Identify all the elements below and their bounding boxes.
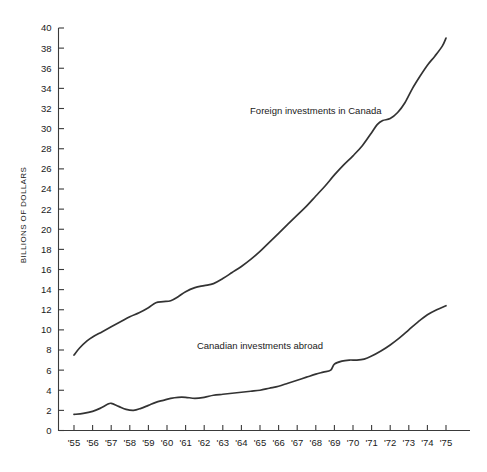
y-tick-label: 6	[46, 365, 51, 376]
y-tick-label: 0	[46, 425, 51, 436]
line-chart: BILLIONS OF DOLLARS 02468101214161820222…	[0, 0, 487, 472]
chart-background	[0, 0, 487, 472]
series-label-foreign-investments-in-canada: Foreign investments in Canada	[250, 105, 382, 116]
x-tick-label: '75	[440, 437, 452, 448]
x-tick-label: '72	[384, 437, 396, 448]
x-tick-label: '70	[347, 437, 359, 448]
y-tick-label: 4	[46, 385, 51, 396]
y-tick-label: 8	[46, 344, 51, 355]
y-tick-label: 26	[41, 163, 52, 174]
x-tick-label: '73	[403, 437, 415, 448]
y-tick-label: 40	[41, 22, 52, 33]
x-tick-label: '66	[272, 437, 284, 448]
y-tick-label: 10	[41, 324, 52, 335]
x-tick-label: '69	[328, 437, 340, 448]
x-tick-label: '56	[86, 437, 98, 448]
y-tick-label: 14	[41, 284, 52, 295]
y-tick-label: 24	[41, 183, 52, 194]
x-tick-label: '65	[254, 437, 266, 448]
series-label-canadian-investments-abroad: Canadian investments abroad	[197, 340, 323, 351]
x-tick-label: '61	[179, 437, 191, 448]
x-tick-label: '55	[68, 437, 80, 448]
y-tick-label: 30	[41, 123, 52, 134]
y-tick-label: 34	[41, 83, 52, 94]
x-tick-label: '64	[235, 437, 247, 448]
x-tick-label: '74	[421, 437, 433, 448]
y-tick-label: 16	[41, 264, 52, 275]
y-tick-label: 2	[46, 405, 51, 416]
x-tick-label: '68	[310, 437, 322, 448]
y-tick-label: 38	[41, 43, 52, 54]
x-tick-label: '62	[198, 437, 210, 448]
y-tick-label: 20	[41, 224, 52, 235]
y-tick-label: 36	[41, 63, 52, 74]
x-tick-label: '71	[365, 437, 377, 448]
x-tick-label: '63	[217, 437, 229, 448]
y-axis-title: BILLIONS OF DOLLARS	[19, 167, 28, 264]
y-tick-label: 32	[41, 103, 52, 114]
y-tick-label: 12	[41, 304, 52, 315]
x-tick-label: '59	[142, 437, 154, 448]
y-tick-label: 28	[41, 143, 52, 154]
x-tick-label: '67	[291, 437, 303, 448]
x-tick-label: '58	[124, 437, 136, 448]
x-tick-label: '60	[161, 437, 173, 448]
x-tick-label: '57	[105, 437, 117, 448]
y-tick-label: 18	[41, 244, 52, 255]
y-tick-label: 22	[41, 204, 52, 215]
